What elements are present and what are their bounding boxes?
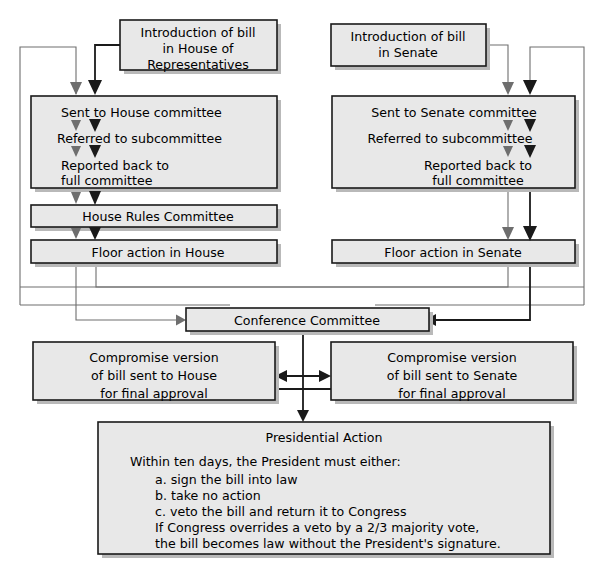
arrow-senate-a-thin [502, 82, 514, 95]
senate-intro-line-2: in Senate [378, 45, 438, 60]
bill-to-law-flowchart: Introduction of bill in House of Represe… [0, 0, 604, 573]
house-intro-line-2: in House of [162, 41, 234, 56]
arrow-house-a-thin [70, 82, 82, 95]
compromise-senate-line-1: Compromise version [387, 350, 517, 365]
arrow-senate-d-thin [502, 227, 514, 240]
senate-floor-to-conference-line [436, 265, 530, 320]
presidential-action-line-1: Within ten days, the President must eith… [130, 454, 401, 469]
senate-intro-line-1: Introduction of bill [351, 29, 466, 44]
presidential-action-line-6: the bill becomes law without the Preside… [155, 536, 501, 551]
node-senate-committee[interactable]: Sent to Senate committee Referred to sub… [332, 96, 579, 192]
conference-label: Conference Committee [234, 313, 380, 328]
node-floor-action-senate[interactable]: Floor action in Senate [332, 240, 579, 267]
house-rules-label: House Rules Committee [82, 209, 234, 224]
presidential-action-line-2: a. sign the bill into law [155, 472, 298, 487]
arrow-to-senate-compromise [319, 370, 331, 382]
senate-committee-line-2: Referred to subcommittee [368, 131, 533, 146]
senate-committee-line-3: Reported back to [424, 158, 532, 173]
node-house-committee[interactable]: Sent to House committee Referred to subc… [31, 96, 281, 192]
house-committee-line-4: full committee [61, 173, 153, 188]
flowchart-canvas: Introduction of bill in House of Represe… [0, 0, 604, 573]
presidential-action-heading: Presidential Action [266, 430, 383, 445]
compromise-house-line-3: for final approval [100, 386, 207, 401]
arrow-senate-a-thick [523, 80, 537, 95]
node-presidential-action[interactable]: Presidential Action Within ten days, the… [98, 422, 554, 558]
floor-senate-label: Floor action in Senate [384, 245, 522, 260]
house-floor-return [96, 265, 584, 287]
arrow-house-d-thick [89, 191, 101, 205]
house-committee-line-1: Sent to House committee [61, 105, 222, 120]
node-compromise-house[interactable]: Compromise version of bill sent to House… [33, 342, 279, 404]
compromise-senate-line-2: of bill sent to Senate [387, 368, 518, 383]
arrow-house-d-thin [71, 192, 81, 204]
house-intro-line-3: Representatives [147, 57, 249, 72]
arrow-house-e-thin [71, 228, 81, 239]
senate-floor-return [20, 265, 508, 287]
house-committee-line-3: Reported back to [61, 158, 169, 173]
node-floor-action-house[interactable]: Floor action in House [31, 240, 281, 267]
house-committee-line-2: Referred to subcommittee [57, 131, 222, 146]
compromise-senate-line-3: for final approval [398, 386, 505, 401]
node-senate-intro[interactable]: Introduction of bill in Senate [331, 24, 490, 70]
presidential-action-line-3: b. take no action [155, 488, 261, 503]
arrow-senate-d-thick [523, 226, 537, 241]
senate-committee-line-1: Sent to Senate committee [371, 105, 537, 120]
presidential-action-line-4: c. veto the bill and return it to Congre… [155, 504, 406, 519]
presidential-action-line-5: If Congress overrides a veto by a 2/3 ma… [155, 520, 479, 535]
node-conference-committee[interactable]: Conference Committee [186, 308, 433, 335]
arrow-house-a-thick [88, 80, 102, 95]
house-floor-to-conference-line [76, 265, 176, 320]
floor-house-label: Floor action in House [91, 245, 224, 260]
arrow-house-e-thick [89, 227, 101, 240]
house-intro-line-1: Introduction of bill [141, 25, 256, 40]
node-compromise-senate[interactable]: Compromise version of bill sent to Senat… [331, 342, 577, 404]
arrow-into-conference-left [176, 315, 186, 326]
compromise-house-line-1: Compromise version [89, 350, 219, 365]
senate-committee-line-4: full committee [432, 173, 524, 188]
compromise-house-line-2: of bill sent to House [91, 368, 217, 383]
node-house-rules-committee[interactable]: House Rules Committee [31, 205, 281, 231]
arrow-into-presidential-action [297, 410, 309, 422]
node-house-intro[interactable]: Introduction of bill in House of Represe… [120, 20, 281, 74]
